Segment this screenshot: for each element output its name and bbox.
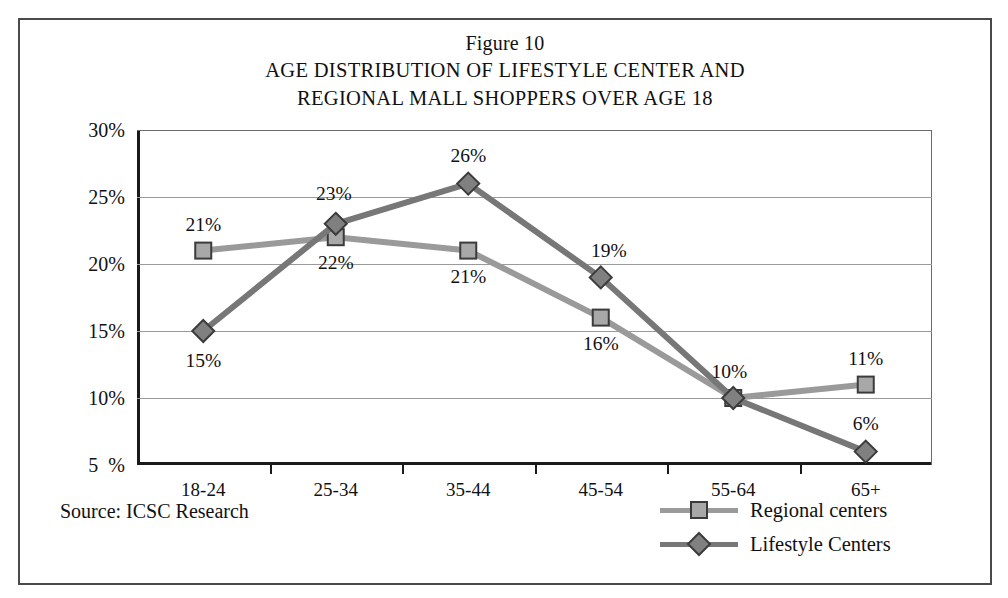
x-axis-tick-2	[402, 465, 404, 474]
title-block: Figure 10 AGE DISTRIBUTION OF LIFESTYLE …	[20, 30, 990, 112]
legend-label: Regional centers	[750, 499, 887, 522]
figure-number: Figure 10	[20, 30, 990, 56]
legend-item-regional-centers[interactable]: Regional centers	[660, 493, 960, 527]
x-axis-label-18-24: 18-24	[181, 479, 225, 501]
square-marker	[460, 243, 476, 259]
figure-frame: Figure 10 AGE DISTRIBUTION OF LIFESTYLE …	[18, 18, 992, 585]
x-axis-tick-4	[667, 465, 669, 474]
figure-title-line-1: AGE DISTRIBUTION OF LIFESTYLE CENTER AND	[20, 56, 990, 84]
legend-key	[660, 500, 738, 520]
y-axis-label-25: 25%	[88, 186, 125, 209]
x-axis-tick-3	[535, 465, 537, 474]
y-axis-label-15: 15%	[88, 320, 125, 343]
x-axis-label-45-54: 45-54	[579, 479, 623, 501]
figure-title-line-2: REGIONAL MALL SHOPPERS OVER AGE 18	[20, 84, 990, 112]
series-lines	[137, 130, 932, 465]
series-lifestyle-centers	[192, 173, 877, 463]
y-axis-label-10: 10%	[88, 387, 125, 410]
y-axis-label-5: 5 %	[88, 454, 125, 477]
square-marker	[686, 497, 712, 523]
x-axis-label-35-44: 35-44	[446, 479, 490, 501]
x-axis-tick-1	[270, 465, 272, 474]
chart-legend: Regional centersLifestyle Centers	[660, 493, 960, 561]
x-axis-label-25-34: 25-34	[314, 479, 358, 501]
series-line	[203, 237, 866, 398]
square-marker	[195, 243, 211, 259]
source-note: Source: ICSC Research	[60, 500, 249, 523]
x-axis-tick-5	[800, 465, 802, 474]
legend-item-lifestyle-centers[interactable]: Lifestyle Centers	[660, 527, 960, 561]
series-line	[203, 184, 866, 452]
diamond-marker	[855, 441, 877, 463]
diamond-marker	[686, 531, 712, 557]
square-marker	[593, 310, 609, 326]
square-marker	[858, 377, 874, 393]
legend-key	[660, 534, 738, 554]
legend-label: Lifestyle Centers	[750, 533, 891, 556]
chart-plot-area: 30%25%20%15%10%5 % 18-2425-3435-4445-545…	[137, 130, 932, 465]
y-axis-label-20: 20%	[88, 253, 125, 276]
y-axis-label-30: 30%	[88, 119, 125, 142]
